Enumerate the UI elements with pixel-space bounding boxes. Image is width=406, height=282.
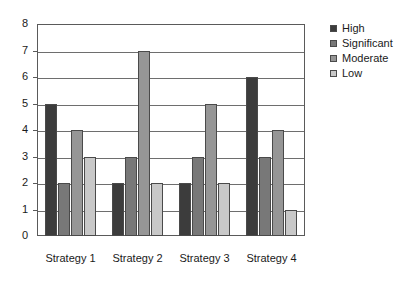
legend: HighSignificantModerateLow [330, 21, 402, 81]
legend-entry: Moderate [330, 51, 402, 65]
x-axis: Strategy 1Strategy 2Strategy 3Strategy 4 [37, 240, 305, 264]
y-axis-tick-label: 0 [22, 230, 28, 241]
gridline [38, 131, 304, 132]
legend-label: Low [342, 67, 362, 79]
y-axis-tick-label: 4 [22, 124, 28, 135]
y-axis-tick-label: 5 [22, 98, 28, 109]
legend-entry: High [330, 21, 402, 35]
y-axis-tick-label: 3 [22, 151, 28, 162]
legend-entry: Low [330, 66, 402, 80]
y-axis-tick-label: 7 [22, 45, 28, 56]
legend-label: High [342, 22, 365, 34]
gridline [38, 184, 304, 185]
y-axis: 012345678 [0, 0, 37, 282]
gridline [38, 52, 304, 53]
y-axis-tick-label: 2 [22, 177, 28, 188]
gridline [38, 105, 304, 106]
plot-area [37, 24, 305, 236]
gridline [38, 78, 304, 79]
bar-chart: 012345678 Strategy 1Strategy 2Strategy 3… [0, 0, 406, 282]
x-axis-tick-label: Strategy 4 [246, 252, 296, 264]
legend-entry: Significant [330, 36, 402, 50]
legend-swatch-icon [330, 55, 337, 62]
y-axis-tick-label: 6 [22, 71, 28, 82]
gridline [38, 211, 304, 212]
y-axis-tick-label: 1 [22, 204, 28, 215]
gridline [38, 158, 304, 159]
legend-swatch-icon [330, 40, 337, 47]
legend-swatch-icon [330, 70, 337, 77]
x-axis-tick-label: Strategy 2 [112, 252, 162, 264]
x-axis-tick-label: Strategy 1 [45, 252, 95, 264]
y-axis-tick-label: 8 [22, 18, 28, 29]
legend-label: Significant [342, 37, 393, 49]
x-axis-tick-label: Strategy 3 [179, 252, 229, 264]
legend-swatch-icon [330, 25, 337, 32]
legend-label: Moderate [342, 52, 388, 64]
